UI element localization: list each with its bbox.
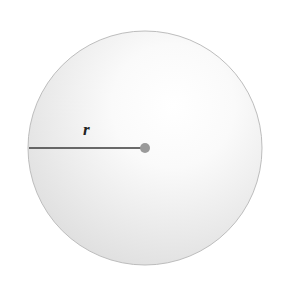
- radius-label: r: [83, 120, 90, 140]
- circle-diagram: [0, 0, 283, 281]
- center-point: [140, 143, 150, 153]
